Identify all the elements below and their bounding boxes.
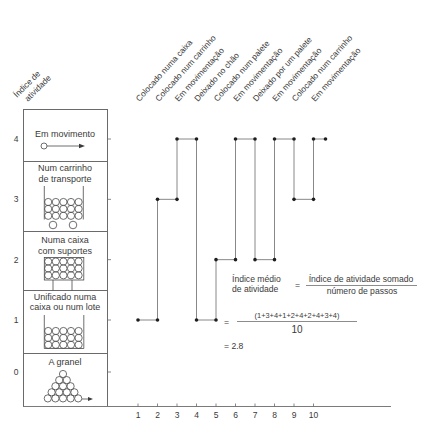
level-3-label-line-1: Num carrinho — [38, 163, 92, 173]
x-tick-label: 2 — [155, 410, 160, 420]
activity-index-chart: Índice de atividade Colocado numa caixaC… — [0, 0, 434, 434]
x-tick-label: 1 — [136, 410, 141, 420]
step-point — [195, 318, 199, 322]
formula-result: = 2.8 — [224, 341, 244, 351]
step-point — [292, 137, 296, 141]
x-tick-label: 4 — [194, 410, 199, 420]
level-3-label-line-2: de transporte — [38, 174, 91, 184]
level-1-label-line-1: Unificado numa — [34, 292, 97, 302]
step-point — [214, 318, 218, 322]
x-axis-ticks: 12345678910 — [136, 404, 319, 421]
mean-activity-formula: Índice médio de atividade = Índice de at… — [224, 274, 417, 351]
level-0-label: A granel — [48, 357, 81, 367]
expansion-denominator: 10 — [291, 324, 303, 335]
expansion-numerator: (1+3+4+1+2+4+2+4+3+4) — [255, 311, 340, 320]
step-point — [234, 258, 238, 262]
step-point — [292, 198, 296, 202]
step-point — [312, 198, 316, 202]
level-0-cell: A granel — [44, 357, 93, 402]
x-tick-label: 10 — [309, 410, 319, 420]
cart-icon — [44, 186, 83, 229]
formula-lhs-line-1: Índice médio — [232, 274, 281, 284]
formula-denominator: número de passos — [327, 286, 398, 296]
step-point — [156, 198, 160, 202]
level-1-cell: Unificado numa caixa ou num lote — [30, 292, 101, 349]
y-tick-label: 4 — [14, 134, 19, 144]
y-tick-label: 0 — [14, 367, 19, 377]
step-point — [273, 258, 277, 262]
box-with-supports-icon — [44, 258, 84, 291]
x-tick-label: 9 — [292, 410, 297, 420]
level-2-label-line-1: Numa caixa — [41, 235, 89, 245]
step-point — [253, 137, 257, 141]
step-point — [234, 137, 238, 141]
formula-equals: = — [295, 280, 300, 290]
level-3-cell: Num carrinho de transporte — [38, 163, 92, 229]
formula-lhs-line-2: de atividade — [232, 284, 279, 294]
y-tick-label: 3 — [14, 194, 19, 204]
x-tick-label: 5 — [214, 410, 219, 420]
x-tick-label: 8 — [272, 410, 277, 420]
level-2-label-line-2: com suportes — [38, 246, 93, 256]
step-point — [253, 258, 257, 262]
activity-step-series — [136, 137, 327, 322]
step-point — [195, 137, 199, 141]
step-point — [136, 318, 140, 322]
x-tick-label: 6 — [233, 410, 238, 420]
step-point — [312, 137, 316, 141]
y-tick-label: 2 — [14, 255, 19, 265]
step-point — [324, 137, 328, 141]
bulk-pile-icon — [44, 370, 93, 402]
step-point — [273, 137, 277, 141]
moving-arrow-icon — [41, 143, 85, 149]
unit-load-box-icon — [44, 315, 84, 349]
step-labels: Colocado numa caixaColocado num carrinho… — [134, 33, 363, 104]
step-point — [175, 198, 179, 202]
level-1-label-line-2: caixa ou num lote — [30, 302, 101, 312]
step-point — [156, 318, 160, 322]
level-4-cell: Em movimento — [35, 129, 95, 149]
x-tick-label: 3 — [175, 410, 180, 420]
expansion-equals: = — [224, 317, 229, 327]
activity-level-legend: Em movimento Num carrinho de transporte … — [24, 110, 108, 407]
x-tick-label: 7 — [253, 410, 258, 420]
formula-numerator: Índice de atividade somado — [309, 274, 414, 284]
level-2-cell: Numa caixa com suportes — [38, 235, 93, 291]
step-point — [214, 258, 218, 262]
level-4-label: Em movimento — [35, 129, 95, 139]
step-point — [175, 137, 179, 141]
y-tick-label: 1 — [14, 315, 19, 325]
